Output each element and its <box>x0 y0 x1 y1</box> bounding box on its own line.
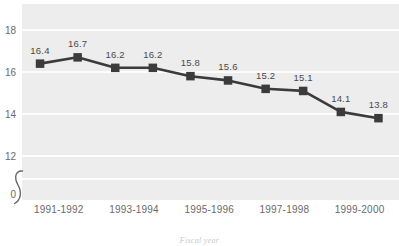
data-point-label: 16.2 <box>143 49 162 60</box>
data-point-marker <box>111 64 120 73</box>
axis-break-squiggle-icon <box>11 168 27 208</box>
y-axis-tick-label: 18 <box>5 25 16 36</box>
data-point-marker <box>149 64 158 73</box>
plot-area: 16.416.716.216.215.815.615.215.114.113.8 <box>22 4 399 200</box>
series-line <box>40 57 378 118</box>
data-point-label: 13.8 <box>369 99 388 110</box>
x-axis-tick-label: 1995-1996 <box>184 204 234 215</box>
x-axis-tick-label: 1997-1998 <box>260 204 310 215</box>
data-point-label: 16.7 <box>68 38 87 49</box>
data-point-marker <box>261 85 270 94</box>
x-axis-tick-label: 1999-2000 <box>335 204 385 215</box>
series-markers <box>36 53 383 122</box>
data-point-marker <box>186 72 195 81</box>
data-point-label: 15.8 <box>181 57 200 68</box>
y-axis-tick-label: 12 <box>5 151 16 162</box>
data-point-marker <box>299 87 308 96</box>
data-point-label: 15.6 <box>218 61 237 72</box>
data-point-marker <box>73 53 82 62</box>
data-point-marker <box>337 108 346 117</box>
data-point-label: 15.2 <box>256 70 275 81</box>
data-point-marker <box>36 59 45 68</box>
data-point-label: 15.1 <box>294 72 313 83</box>
x-axis: 1991-19921993-19941995-19961997-19981999… <box>22 204 399 222</box>
y-axis-tick-label: 14 <box>5 109 16 120</box>
y-axis-tick-label: 16 <box>5 67 16 78</box>
data-point-marker <box>224 76 233 85</box>
data-point-label: 14.1 <box>331 93 350 104</box>
x-axis-caption: Fiscal year <box>0 236 399 245</box>
line-chart: 16.416.716.216.215.815.615.215.114.113.8… <box>0 0 399 246</box>
data-point-label: 16.4 <box>30 45 49 56</box>
data-point-marker <box>374 114 383 123</box>
data-point-label: 16.2 <box>106 49 125 60</box>
x-axis-tick-label: 1991-1992 <box>34 204 84 215</box>
x-axis-tick-label: 1993-1994 <box>109 204 159 215</box>
